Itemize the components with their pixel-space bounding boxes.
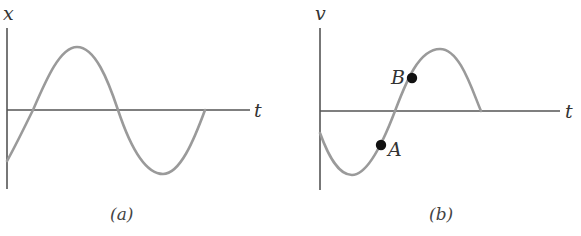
panel-a: x t (a) bbox=[3, 2, 262, 224]
point-a-dot bbox=[376, 140, 386, 150]
y-axis-label-v: v bbox=[315, 2, 326, 24]
caption-a: (a) bbox=[110, 204, 133, 224]
x-axis-label-t: t bbox=[254, 99, 262, 121]
panel-b: A B v t (b) bbox=[315, 2, 573, 224]
x-axis-label-t: t bbox=[565, 100, 573, 122]
point-b-dot bbox=[407, 73, 417, 83]
point-a-label: A bbox=[386, 138, 402, 160]
point-b-label: B bbox=[390, 66, 405, 88]
caption-b: (b) bbox=[429, 204, 453, 224]
figure: x t (a) A B v t (b) bbox=[0, 0, 581, 236]
y-axis-label-x: x bbox=[3, 2, 14, 24]
